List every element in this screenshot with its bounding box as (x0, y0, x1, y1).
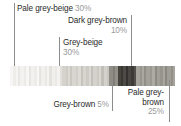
callout-dark-grey-brown: Dark grey-brown 10% (52, 16, 127, 35)
callout-percent-pale-grey-brown: 25% (116, 107, 164, 117)
bar-stripe (173, 66, 175, 86)
callout-percent-pale-grey-beige: 30% (75, 4, 91, 13)
callout-grey-beige: Grey-beige 30% (63, 38, 103, 57)
figure-canvas: Pale grey-beige 30% Dark grey-brown 10% … (0, 0, 181, 126)
leader-line-pale-grey-brown (169, 80, 170, 122)
callout-pale-grey-brown: Pale grey- brown 25% (116, 88, 164, 117)
callout-grey-brown: Grey-brown 5% (38, 100, 109, 110)
callout-percent-dark-grey-brown: 10% (52, 26, 127, 36)
callout-label-pale-grey-brown-line2: brown (116, 98, 164, 108)
callout-percent-grey-beige: 30% (63, 48, 103, 58)
callout-pale-grey-beige: Pale grey-beige 30% (17, 4, 91, 14)
palette-proportion-bar (10, 66, 176, 86)
leader-line-pale-grey-beige (14, 3, 15, 70)
leader-line-dark-grey-brown (131, 15, 132, 70)
callout-label-grey-beige: Grey-beige (63, 38, 103, 48)
callout-label-pale-grey-brown-line1: Pale grey- (116, 88, 164, 98)
leader-line-grey-brown (112, 80, 113, 111)
callout-percent-grey-brown: 5% (97, 100, 109, 109)
callout-label-grey-brown: Grey-brown (53, 100, 95, 109)
callout-label-dark-grey-brown: Dark grey-brown (52, 16, 127, 26)
callout-label-pale-grey-beige: Pale grey-beige (17, 4, 73, 13)
